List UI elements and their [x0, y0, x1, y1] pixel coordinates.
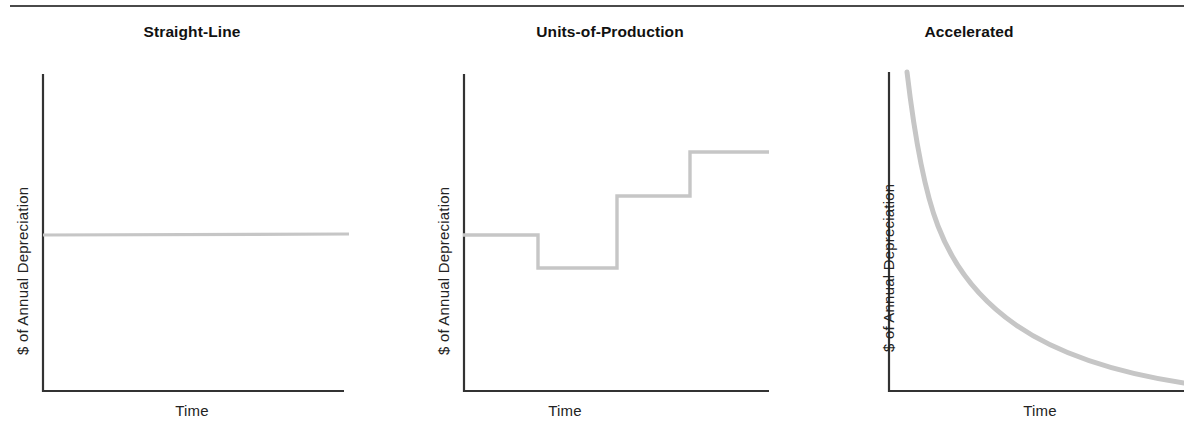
chart-panel-straight-line: Straight-Line $ of Annual Depreciation T…: [0, 0, 400, 434]
data-line-constant: [43, 234, 349, 235]
x-axis-label-accelerated: Time: [990, 402, 1090, 419]
data-curve-accelerated: [907, 72, 1184, 383]
y-axis-label-straight-line: $ of Annual Depreciation: [14, 187, 31, 355]
y-axis-label-accelerated: $ of Annual Depreciation: [880, 184, 897, 352]
data-line-step: [463, 152, 769, 268]
chart-panel-units-of-production: Units-of-Production $ of Annual Deprecia…: [400, 0, 820, 434]
chart-panel-accelerated: Accelerated $ of Annual Depreciation Tim…: [820, 0, 1184, 434]
plot-accelerated: [820, 0, 1184, 434]
x-axis-label-straight-line: Time: [142, 402, 242, 419]
y-axis-label-units-of-production: $ of Annual Depreciation: [435, 187, 452, 355]
plot-straight-line: [0, 0, 400, 434]
plot-units-of-production: [400, 0, 820, 434]
x-axis-label-units-of-production: Time: [515, 402, 615, 419]
